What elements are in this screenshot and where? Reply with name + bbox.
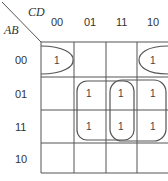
cell-01-10: 1 bbox=[150, 88, 156, 99]
row-label-01: 01 bbox=[15, 88, 27, 100]
cell-01-11: 1 bbox=[118, 88, 124, 99]
row-label-00: 00 bbox=[15, 54, 27, 66]
cell-11-10: 1 bbox=[150, 121, 156, 132]
col-label-10: 10 bbox=[147, 16, 159, 28]
cell-00-10: 1 bbox=[150, 55, 156, 66]
cell-11-01: 1 bbox=[86, 121, 92, 132]
row-label-10: 10 bbox=[15, 153, 27, 165]
grid bbox=[41, 42, 168, 173]
cell-01-01: 1 bbox=[86, 88, 92, 99]
col-label-00: 00 bbox=[51, 16, 63, 28]
cell-00-00: 1 bbox=[54, 55, 60, 66]
karnaugh-map: CD AB 00 01 11 10 00 01 11 10 1 1 1 1 1 … bbox=[0, 0, 168, 181]
cell-11-11: 1 bbox=[118, 121, 124, 132]
col-label-11: 11 bbox=[116, 16, 127, 28]
col-label-01: 01 bbox=[84, 16, 96, 28]
col-variable-label: CD bbox=[28, 5, 45, 19]
row-label-11: 11 bbox=[15, 121, 26, 133]
row-variable-label: AB bbox=[3, 23, 19, 37]
